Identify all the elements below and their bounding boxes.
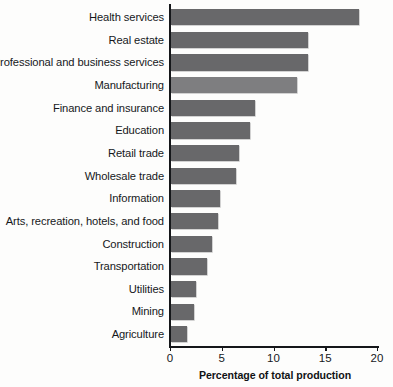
bar-row: Professional and business services [170,51,382,74]
x-tick [170,346,171,351]
bar [171,9,359,25]
bar-row: Arts, recreation, hotels, and food [170,210,382,233]
x-tick-label: 10 [267,352,280,364]
category-label: Wholesale trade [85,165,164,188]
bar-row: Transportation [170,255,382,278]
x-tick-label: 0 [167,352,173,364]
plot-area: Health servicesReal estateProfessional a… [170,5,382,345]
bar-row: Manufacturing [170,74,382,97]
category-label: Information [109,187,164,210]
category-label: Professional and business services [0,51,164,74]
category-label: Finance and insurance [53,97,164,120]
bar [171,213,218,229]
x-tick [325,346,326,351]
category-label: Arts, recreation, hotels, and food [6,210,164,233]
bar-row: Utilities [170,278,382,301]
category-label: Real estate [109,29,165,52]
bar [171,326,187,342]
x-tick [222,346,223,351]
bar [171,100,255,116]
x-tick-label: 20 [371,352,384,364]
category-label: Transportation [94,255,164,278]
x-axis-title: Percentage of total production [169,369,381,381]
category-label: Retail trade [108,142,164,165]
bar [171,54,308,70]
bar [171,145,239,161]
bar-row: Information [170,187,382,210]
category-label: Health services [89,6,164,29]
bar-row: Finance and insurance [170,97,382,120]
bar-row: Real estate [170,29,382,52]
category-label: Construction [102,233,164,256]
bar [171,304,194,320]
category-label: Education [115,119,164,142]
bar-chart: Health servicesReal estateProfessional a… [0,0,393,387]
category-label: Agriculture [112,323,164,346]
bar [171,32,308,48]
x-tick [274,346,275,351]
bar-row: Agriculture [170,323,382,346]
bar [171,236,212,252]
category-label: Utilities [129,278,164,301]
bar [171,168,236,184]
category-label: Manufacturing [94,74,164,97]
x-tick-label: 15 [319,352,332,364]
bar [171,77,297,93]
bar [171,281,196,297]
bar-row: Wholesale trade [170,165,382,188]
bar [171,122,250,138]
bar [171,258,207,274]
bar-row: Construction [170,233,382,256]
x-tick [377,346,378,351]
x-tick-label: 5 [219,352,225,364]
bar-row: Retail trade [170,142,382,165]
bar-row: Health services [170,6,382,29]
bar [171,190,220,206]
category-label: Mining [132,300,164,323]
bar-row: Education [170,119,382,142]
bar-row: Mining [170,300,382,323]
